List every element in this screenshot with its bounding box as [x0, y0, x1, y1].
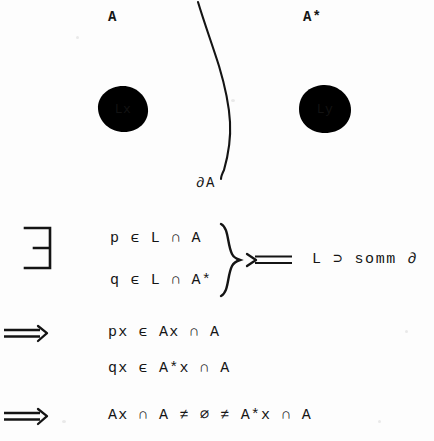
implies-1-arrowhead	[38, 326, 47, 341]
proof-line-5: Ax ∩ A ≠ ∅ ≠ A*x ∩ A	[108, 408, 312, 423]
grouping-brace	[221, 224, 240, 296]
exists-icon	[25, 228, 50, 268]
scan-speckle	[62, 420, 66, 423]
proof-line-2: q ϵ L ∩ A*	[110, 273, 212, 288]
scan-speckle	[76, 36, 79, 39]
region-label-A-star: A*	[303, 10, 322, 24]
scanned-page: A A* ∂A Lx Ly p ϵ L ∩ A q ϵ L ∩ A*	[0, 0, 434, 441]
proof-annotation: L ⊃ somm ∂	[312, 252, 418, 267]
node-label-Lx: Lx	[115, 103, 132, 116]
node-Lx: Lx	[96, 84, 150, 134]
node-Ly: Ly	[297, 83, 353, 135]
implied-by-arrowhead	[247, 254, 256, 266]
implies-2-arrowhead	[38, 409, 47, 424]
boundary-curve	[198, 2, 230, 179]
scan-speckle	[378, 420, 381, 423]
scan-speckle	[405, 330, 408, 333]
node-label-Ly: Ly	[317, 103, 334, 116]
proof-line-3: px ϵ Ax ∩ A	[108, 325, 220, 340]
boundary-label: ∂A	[196, 176, 216, 190]
scan-speckle	[231, 99, 235, 102]
proof-line-1: p ϵ L ∩ A	[110, 231, 202, 246]
region-label-A: A	[108, 10, 117, 24]
proof-line-4: qx ϵ A*x ∩ A	[108, 361, 230, 376]
